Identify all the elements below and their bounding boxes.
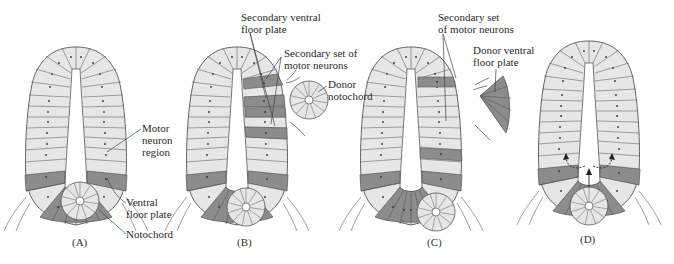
label-line: region xyxy=(142,146,173,158)
secondary-motor-neurons-label-b: Secondary set of motor neurons xyxy=(284,47,357,71)
notochord-label: Notochord xyxy=(126,228,173,240)
label-line: floor plate xyxy=(126,208,172,220)
label-line: Secondary ventral xyxy=(241,11,321,23)
panel-label-d: (D) xyxy=(580,233,595,245)
label-line: of motor neurons xyxy=(438,23,514,35)
label-line: floor plate xyxy=(473,56,534,68)
panel-label-c: (C) xyxy=(427,236,442,248)
secondary-motor-neurons-label-c: Secondary set of motor neurons xyxy=(438,11,514,35)
panel-b-notochord xyxy=(227,188,265,226)
label-line: notochord xyxy=(328,90,373,102)
secondary-ventral-floor-plate-label: Secondary ventral floor plate xyxy=(241,11,321,35)
donor-ventral-floor-plate-label: Donor ventral floor plate xyxy=(473,44,534,68)
label-line: Donor ventral xyxy=(473,44,534,56)
panel-label-a: (A) xyxy=(72,236,87,248)
label-line: floor plate xyxy=(241,23,321,35)
neural-tube-diagram xyxy=(0,0,674,264)
panel-d-notochord xyxy=(570,187,608,225)
panel-b-donor-notochord xyxy=(290,81,328,119)
label-line: Ventral xyxy=(126,196,172,208)
label-line: motor neurons xyxy=(284,59,357,71)
motor-neuron-region-label: Motor neuron region xyxy=(142,122,173,158)
label-line: Secondary set xyxy=(438,11,514,23)
label-line: Motor xyxy=(142,122,173,134)
panel-label-b: (B) xyxy=(237,236,252,248)
label-line: Secondary set of xyxy=(284,47,357,59)
panel-c-neural-tube xyxy=(339,47,483,231)
ventral-floor-plate-label: Ventral floor plate xyxy=(126,196,172,220)
donor-notochord-label: Donor notochord xyxy=(328,78,373,102)
label-line: Donor xyxy=(328,78,373,90)
panel-c-notochord xyxy=(417,193,455,231)
label-line: neuron xyxy=(142,134,173,146)
panel-a-notochord xyxy=(61,182,99,220)
